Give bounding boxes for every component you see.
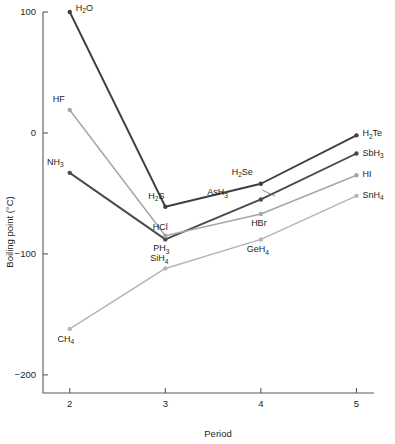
data-point-HI <box>354 173 358 177</box>
point-label-HCl: HCl <box>153 222 168 232</box>
point-label-H2Te: H2Te <box>362 128 382 139</box>
series-layer <box>70 12 357 329</box>
point-label-HI: HI <box>362 169 371 179</box>
series-line-group-14-hydrides <box>70 196 357 329</box>
data-point-H2O <box>68 10 72 14</box>
data-point-HF <box>68 108 72 112</box>
axes-group: 1000−100−200 2345 <box>15 6 374 409</box>
x-axis-ticks: 2345 <box>67 388 359 409</box>
data-point-SiH4 <box>163 266 167 270</box>
point-label-HF: HF <box>53 94 65 104</box>
point-label-SnH4: SnH4 <box>362 190 384 201</box>
data-point-NH3 <box>68 171 72 175</box>
data-point-GeH4 <box>259 237 263 241</box>
data-point-H2Te <box>354 133 358 137</box>
data-point-labels: H2OH2SH2SeH2TeNH3PH3AsH3SbH3HFHClHBrHICH… <box>47 3 384 345</box>
point-label-SbH3: SbH3 <box>362 148 384 159</box>
data-point-SbH3 <box>354 151 358 155</box>
data-point-markers <box>68 10 359 331</box>
y-tick-label: 0 <box>31 127 36 138</box>
point-label-GeH4: GeH4 <box>247 244 270 255</box>
data-point-HCl <box>163 234 167 238</box>
data-point-H2S <box>163 205 167 209</box>
x-tick-label: 3 <box>163 398 168 409</box>
y-tick-label: 100 <box>20 6 36 17</box>
y-tick-label: −100 <box>15 248 36 259</box>
series-line-group-16-hydrides <box>70 12 357 207</box>
point-label-AsH3: AsH3 <box>207 187 228 198</box>
data-point-SnH4 <box>354 194 358 198</box>
series-line-group-17-hydrides <box>70 110 357 236</box>
x-tick-label: 2 <box>67 398 72 409</box>
data-point-AsH3 <box>259 197 263 201</box>
point-label-HBr: HBr <box>251 218 267 228</box>
data-point-H2Se <box>259 182 263 186</box>
x-tick-label: 5 <box>354 398 359 409</box>
point-label-SiH4: SiH4 <box>150 253 169 264</box>
point-label-H2S: H2S <box>148 191 164 202</box>
data-point-CH4 <box>68 327 72 331</box>
point-label-H2Se: H2Se <box>232 167 253 178</box>
point-label-CH4: CH4 <box>57 334 74 345</box>
boiling-point-chart: 1000−100−200 2345 H2OH2SH2SeH2TeNH3PH3As… <box>0 0 395 444</box>
data-point-HBr <box>259 212 263 216</box>
chart-svg: 1000−100−200 2345 H2OH2SH2SeH2TeNH3PH3As… <box>0 0 395 444</box>
point-label-H2O: H2O <box>76 3 93 14</box>
axis-lines <box>43 12 374 393</box>
y-axis-title: Boiling point (°C) <box>4 196 15 267</box>
x-axis-title: Period <box>204 428 231 439</box>
x-tick-label: 4 <box>258 398 263 409</box>
y-tick-label: −200 <box>15 369 36 380</box>
point-label-NH3: NH3 <box>47 157 64 168</box>
